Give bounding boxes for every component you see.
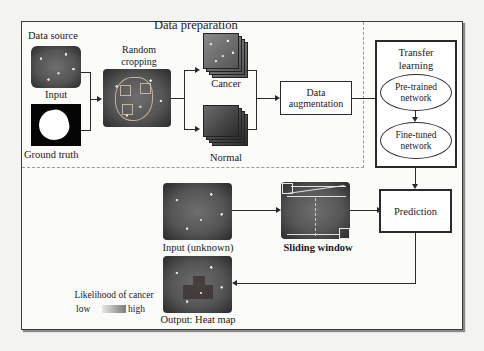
prediction-label: Prediction	[394, 206, 437, 217]
connector	[350, 210, 377, 211]
connector	[171, 98, 185, 99]
normal-label: Normal	[203, 152, 249, 163]
connector	[415, 168, 416, 185]
crop-box	[120, 85, 131, 96]
transfer-learning-title-1: Transfer	[398, 46, 433, 59]
random-cropping-label-1: Random	[105, 44, 173, 55]
connector	[415, 233, 416, 283]
connector	[256, 70, 257, 130]
data-augmentation-label-1: Data	[307, 87, 326, 98]
input-label: Input	[31, 89, 81, 100]
arrow-head-icon	[232, 280, 237, 286]
finetuned-label-2: network	[400, 141, 431, 152]
crop-box	[140, 83, 151, 94]
finetuned-label-1: Fine-tuned	[395, 130, 436, 141]
legend-low-label: low	[76, 304, 90, 315]
random-cropping-label-2: cropping	[105, 56, 173, 67]
prediction-box: Prediction	[379, 189, 452, 233]
ground-truth-image	[31, 104, 81, 146]
tumor-outline	[115, 77, 153, 121]
pretrained-network-node: Pre-trained network	[380, 74, 452, 111]
normal-patch	[203, 105, 239, 137]
legend-high-label: high	[128, 304, 145, 315]
connector	[352, 98, 376, 99]
finetuned-network-node: Fine-tuned network	[380, 122, 452, 159]
legend-gradient-bar	[102, 305, 126, 313]
data-preparation-title: Data preparation	[154, 19, 238, 32]
scan-path	[315, 198, 317, 236]
data-augmentation-box: Data augmentation	[280, 81, 352, 115]
pretrained-label-2: network	[400, 93, 431, 104]
connector	[81, 130, 90, 131]
scan-path	[287, 196, 346, 197]
pretrained-label-1: Pre-trained	[395, 82, 437, 93]
arrow-head-icon	[195, 126, 200, 132]
heat-region	[193, 276, 205, 285]
cancer-patch	[203, 33, 239, 69]
scan-path	[287, 234, 339, 235]
input-unknown-label: Input (unknown)	[155, 242, 241, 253]
input-image	[31, 46, 81, 88]
tumor-mask-shape	[36, 107, 72, 143]
output-heatmap-label: Output: Heat map	[155, 314, 241, 325]
ground-truth-label: Ground truth	[24, 149, 79, 160]
arrow-head-icon	[97, 96, 102, 102]
heat-region	[183, 285, 213, 299]
crop-box	[122, 104, 133, 115]
heatmap-image	[163, 256, 232, 313]
sliding-window-label: Sliding window	[278, 242, 358, 253]
connector	[90, 99, 97, 100]
connector	[184, 70, 185, 130]
sliding-window-image	[281, 182, 350, 239]
connector	[237, 283, 416, 284]
arrow-head-icon	[195, 67, 200, 73]
connector	[256, 98, 275, 99]
cancer-label: Cancer	[203, 78, 249, 89]
legend-title: Likelihood of cancer	[66, 290, 162, 301]
connector	[232, 210, 276, 211]
random-cropping-image	[103, 69, 171, 127]
data-source-title: Data source	[28, 30, 78, 41]
connector	[90, 72, 91, 131]
input-unknown-image	[163, 183, 232, 240]
connector	[81, 72, 90, 73]
window-box	[339, 228, 350, 239]
connector	[184, 70, 195, 71]
connector	[184, 129, 195, 130]
transfer-learning-title-2: learning	[398, 59, 433, 72]
data-augmentation-label-2: augmentation	[289, 98, 343, 109]
